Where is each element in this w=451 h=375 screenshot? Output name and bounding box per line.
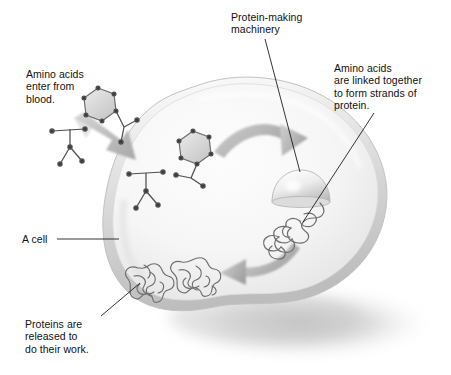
label-line: A cell (22, 233, 47, 245)
figure-canvas: Amino acids enter from blood. Protein-ma… (0, 0, 451, 375)
label-line: Proteins are (25, 318, 82, 330)
label-amino-acids-enter: Amino acids enter from blood. (26, 68, 84, 105)
label-line: enter from (26, 80, 74, 92)
label-line: to form strands of (334, 87, 417, 99)
label-amino-acids-linked: Amino acids are linked together to form … (334, 62, 422, 112)
label-line: protein. (334, 99, 369, 111)
label-line: Amino acids (334, 62, 392, 74)
label-line: machinery (231, 23, 280, 35)
label-line: blood. (26, 93, 55, 105)
label-line: released to (25, 330, 78, 342)
leader-line-released (101, 283, 140, 316)
amino-acid-stick-outer (50, 127, 87, 166)
label-proteins-released: Proteins are released to do their work. (25, 318, 89, 355)
label-line: are linked together (334, 74, 422, 86)
label-line: Protein-making (231, 11, 302, 23)
label-protein-machinery: Protein-making machinery (231, 11, 302, 36)
label-a-cell: A cell (22, 233, 47, 245)
label-line: do their work. (25, 343, 89, 355)
label-line: Amino acids (26, 68, 84, 80)
